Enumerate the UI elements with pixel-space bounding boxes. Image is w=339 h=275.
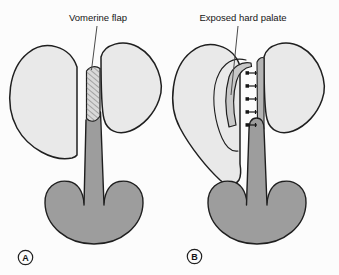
panel-a-leader-line <box>92 26 98 70</box>
panel-a-badge: A <box>18 250 32 264</box>
panel-b-annotation: Exposed hard palate <box>199 12 286 23</box>
panel-a-vomerine-flap-hatching <box>87 67 101 122</box>
panel-b-badge: B <box>187 249 201 263</box>
suture-mark <box>246 110 258 114</box>
panel-b-illustration: Exposed hard palate B <box>173 12 324 264</box>
suture-mark <box>246 97 258 101</box>
panel-a-illustration: Vomerine flap A <box>10 12 161 265</box>
panel-b-badge-letter: B <box>191 252 198 262</box>
panel-a-badge-letter: A <box>22 253 29 263</box>
suture-mark <box>246 84 258 88</box>
panel-a-annotation: Vomerine flap <box>69 12 127 23</box>
suture-mark <box>246 71 258 75</box>
illustration-canvas: Vomerine flap A <box>0 0 339 275</box>
panel-b-right-palatal-shelf <box>264 43 324 133</box>
panel-a-right-palatal-shelf <box>101 43 161 133</box>
cleft-palate-figure: Vomerine flap A <box>0 0 339 275</box>
panel-a-left-palatal-shelf <box>10 46 77 159</box>
